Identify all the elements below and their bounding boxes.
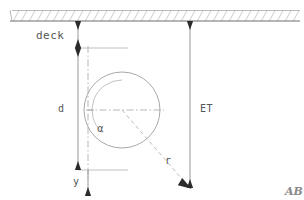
corner-watermark-label: AB [285,186,303,197]
d-dimension-arrow-top [75,48,81,57]
et-label: ET [200,104,213,114]
deck-hatch-band [10,11,300,22]
deck-dimension-arrow-bottom [75,39,81,48]
deck-dimension-arrow-top [75,21,81,30]
d-dimension [75,48,81,170]
deck-dimension [75,21,81,48]
radius-line-group [122,110,192,189]
engineering-diagram: deck d ET α r y AB [0,0,304,200]
y-axis-arrow [85,170,91,196]
deck-hatch-fill [10,11,300,22]
d-dimension-arrow-bottom [75,161,81,170]
radius-label: r [165,156,171,166]
y-axis-arrowhead [85,187,91,196]
alpha-angle-label: α [97,124,104,134]
et-dimension [187,21,193,188]
deck-label: deck [36,30,65,41]
d-label: d [58,104,64,114]
y-axis-label: y [73,177,79,187]
et-dimension-arrow-top [187,21,193,30]
